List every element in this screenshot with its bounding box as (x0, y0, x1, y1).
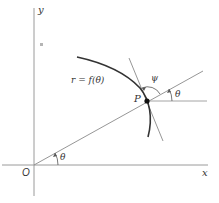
psi-label: ψ (151, 73, 158, 83)
marker-dot (40, 43, 43, 46)
origin-label: O (22, 168, 30, 178)
theta-origin-label: θ (60, 152, 65, 162)
radial-line (34, 71, 203, 165)
point-p-dot (144, 98, 149, 103)
diagram-canvas (0, 0, 219, 203)
y-axis-label: y (38, 5, 44, 15)
theta-point-label: θ (175, 89, 180, 99)
curve-equation-label: r = f(θ) (71, 75, 104, 85)
polar-tangent-diagram: y x O P r = f(θ) θ θ ψ (0, 0, 219, 203)
point-p-label: P (134, 94, 141, 104)
x-axis-label: x (202, 168, 208, 178)
